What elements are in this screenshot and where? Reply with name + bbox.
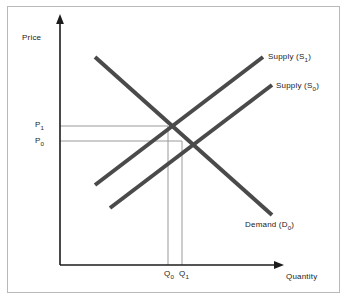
quantity-tick-label-q0: Q0 bbox=[164, 270, 174, 278]
y-axis-label: Price bbox=[22, 34, 41, 42]
curve-label-supply-s1-close: ) bbox=[308, 52, 311, 61]
curve-label-supply-s1-text: Supply (S bbox=[268, 52, 304, 61]
curve-supply-s0 bbox=[110, 85, 272, 208]
plot-area bbox=[0, 0, 355, 301]
y-axis-arrow-icon bbox=[56, 14, 64, 24]
price-tick-label-p0: P0 bbox=[35, 137, 44, 145]
price-tick-label-p0-subscript: 0 bbox=[41, 140, 45, 147]
quantity-tick-label-q1-subscript: 1 bbox=[185, 273, 189, 280]
curve-label-supply-s0: Supply (S0) bbox=[276, 82, 319, 90]
curve-label-supply-s1: Supply (S1) bbox=[268, 53, 311, 61]
curve-label-demand-d0-close: ) bbox=[291, 220, 294, 229]
curve-label-supply-s0-text: Supply (S bbox=[276, 81, 312, 90]
curve-label-demand-d0-text: Demand (D bbox=[245, 220, 288, 229]
curve-supply-s1 bbox=[95, 57, 263, 185]
curve-demand-d0 bbox=[95, 57, 272, 215]
quantity-tick-label-q0-subscript: 0 bbox=[170, 273, 174, 280]
price-tick-label-p1: P1 bbox=[35, 121, 44, 129]
x-axis-label: Quantity bbox=[286, 273, 317, 281]
curve-label-demand-d0: Demand (D0) bbox=[245, 221, 294, 229]
curve-label-supply-s0-close: ) bbox=[316, 81, 319, 90]
supply-demand-figure: Price Quantity Supply (S1) Supply (S0) D… bbox=[0, 0, 355, 301]
quantity-tick-label-q1: Q1 bbox=[179, 270, 189, 278]
price-tick-label-p1-subscript: 1 bbox=[41, 124, 45, 131]
x-axis-arrow-icon bbox=[274, 261, 284, 269]
